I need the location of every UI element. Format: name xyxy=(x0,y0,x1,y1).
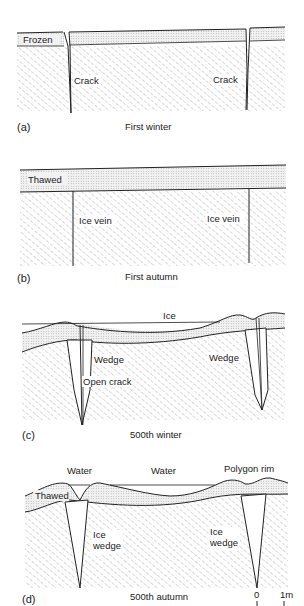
label-crack-right: Crack xyxy=(213,74,238,85)
caption-b: First autumn xyxy=(125,271,178,282)
ground-hatch xyxy=(20,191,286,266)
label-ice-vein-left: Ice vein xyxy=(79,215,112,226)
panel-a: Frozen Crack Crack (a) First winter xyxy=(17,27,285,133)
caption-a: First winter xyxy=(125,121,171,132)
label-ice-wedge-right-2: wedge xyxy=(209,537,238,548)
label-ice: Ice xyxy=(163,310,176,321)
label-water-left: Water xyxy=(67,465,92,476)
scale-start: 0 xyxy=(254,589,259,600)
caption-d: 500th autumn xyxy=(130,591,188,602)
label-thawed: Thawed xyxy=(28,174,62,185)
panel-label-d: (d) xyxy=(22,593,35,605)
caption-c: 500th winter xyxy=(130,429,182,440)
label-ice-vein-right: Ice vein xyxy=(207,213,240,224)
label-crack-left: Crack xyxy=(74,75,99,86)
panel-c: Ice Wedge Wedge Open crack (c) 500th win… xyxy=(22,310,285,441)
panel-d: Water Water Polygon rim Thawed Ice wedge… xyxy=(22,463,293,606)
scale-bar: 0 1m xyxy=(254,589,293,606)
ice-surface xyxy=(22,322,220,324)
label-ice-wedge-left-1: Ice xyxy=(93,529,106,540)
label-wedge-left: Wedge xyxy=(94,354,124,365)
scale-end: 1m xyxy=(280,589,293,600)
label-open-crack: Open crack xyxy=(83,376,132,387)
panel-b: Thawed Ice vein Ice vein (b) First autum… xyxy=(17,165,286,284)
ice-wedge-diagram: Frozen Crack Crack (a) First winter Thaw… xyxy=(0,0,304,606)
ground-hatch xyxy=(17,46,285,111)
panel-label-c: (c) xyxy=(22,429,35,441)
label-polygon-rim: Polygon rim xyxy=(224,463,274,474)
panel-label-a: (a) xyxy=(17,121,30,133)
label-water-center: Water xyxy=(151,465,176,476)
panel-label-b: (b) xyxy=(17,272,30,284)
label-ice-wedge-right-1: Ice xyxy=(210,526,223,537)
label-thawed: Thawed xyxy=(35,490,69,501)
label-ice-wedge-left-2: wedge xyxy=(92,540,121,551)
label-frozen: Frozen xyxy=(23,34,53,45)
label-wedge-right: Wedge xyxy=(209,352,239,363)
